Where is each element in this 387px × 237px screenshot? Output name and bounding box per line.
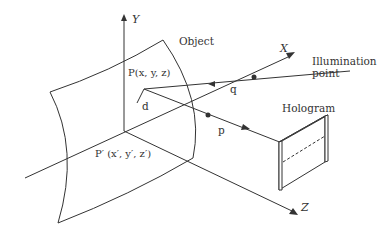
point-p-prime-label: P′ (x′, y′, z′): [95, 148, 151, 159]
x-axis-label: X: [279, 42, 289, 55]
z-axis-arrow-icon: [289, 208, 298, 215]
hologram-label: Hologram: [282, 102, 335, 114]
z-axis-label: Z: [300, 201, 309, 214]
illumination-label: Illumination: [312, 55, 377, 67]
q-arrow-icon: [208, 81, 215, 87]
holography-diagram: Y X Z Object P(x, y, z) P′ (x′, y′, z′) …: [0, 0, 387, 237]
p-dot: [206, 113, 211, 118]
p-arrow-icon: [241, 124, 250, 130]
object-ray: [144, 89, 300, 150]
point-p-label: P(x, y, z): [128, 67, 171, 78]
p-label: p: [218, 124, 225, 136]
q-label: q: [230, 83, 237, 95]
z-axis: [124, 131, 292, 211]
object-surface: [50, 40, 196, 223]
hologram-plate: [279, 115, 328, 190]
y-axis-label: Y: [132, 13, 141, 26]
object-label: Object: [179, 35, 215, 47]
y-axis-arrow-icon: [121, 14, 127, 21]
illumination-label-2: point: [312, 67, 340, 79]
d-label: d: [142, 100, 149, 112]
illumination-point-dot: [252, 75, 257, 80]
